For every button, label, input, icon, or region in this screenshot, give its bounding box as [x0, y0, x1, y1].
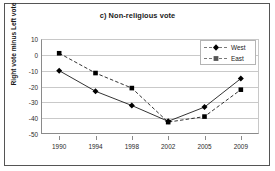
data-point-east — [166, 120, 171, 125]
legend-item-west: West — [201, 42, 255, 53]
data-point-west — [129, 103, 135, 109]
x-tick-mark — [205, 136, 206, 140]
y-tick-label: -10 — [12, 67, 38, 74]
x-tick-label: 1990 — [39, 143, 79, 150]
data-point-east — [130, 86, 135, 91]
y-tick-label: -20 — [12, 83, 38, 90]
data-point-west — [93, 88, 99, 94]
x-tick-label: 1998 — [112, 143, 152, 150]
x-tick-mark — [241, 136, 242, 140]
y-tick-label: -40 — [12, 115, 38, 122]
x-tick-mark — [168, 136, 169, 140]
data-point-west — [56, 68, 62, 74]
y-tick-label: -50 — [12, 131, 38, 138]
data-point-east — [93, 71, 98, 76]
legend-label-east: East — [231, 53, 244, 64]
data-point-east — [239, 87, 244, 92]
x-tick-label: 2009 — [221, 143, 261, 150]
data-point-east — [202, 114, 207, 119]
y-tick-label: 10 — [12, 36, 38, 43]
x-tick-label: 2005 — [185, 143, 225, 150]
chart-legend: West East — [200, 40, 256, 65]
y-tick-label: -30 — [12, 99, 38, 106]
legend-item-east: East — [201, 53, 255, 64]
x-tick-label: 2002 — [148, 143, 188, 150]
data-point-east — [57, 51, 62, 56]
x-axis-tick-labels: 199019941998200220052009 — [41, 136, 259, 152]
x-tick-label: 1994 — [76, 143, 116, 150]
y-tick-label: 0 — [12, 51, 38, 58]
legend-label-west: West — [231, 42, 245, 53]
east-marker-icon — [203, 53, 229, 64]
chart-figure: c) Non-religious vote Right vote minus L… — [0, 0, 275, 171]
y-axis-tick-labels: 100-10-20-30-40-50 — [10, 39, 38, 134]
series-line-west — [59, 71, 241, 122]
chart-title: c) Non-religious vote — [0, 11, 275, 20]
x-tick-mark — [132, 136, 133, 140]
x-tick-mark — [59, 136, 60, 140]
x-tick-mark — [96, 136, 97, 140]
west-marker-icon — [203, 42, 229, 53]
